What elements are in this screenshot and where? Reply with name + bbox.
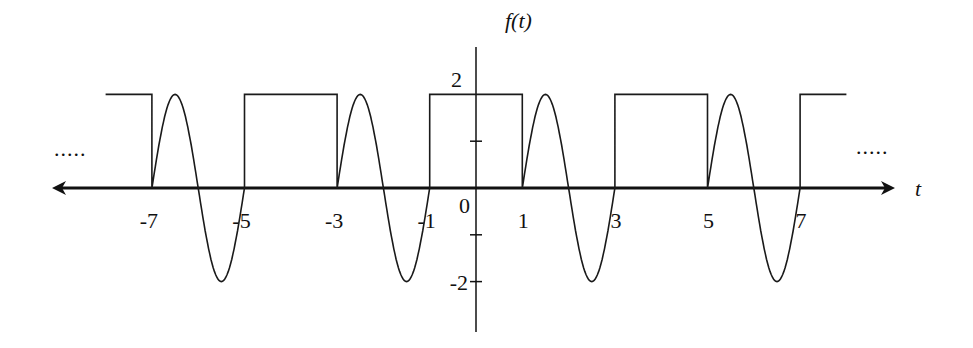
- origin-label: 0: [459, 193, 470, 218]
- y-tick-label: -2: [450, 270, 468, 295]
- x-tick-label: -3: [325, 208, 343, 233]
- y-tick-label: 2: [451, 67, 462, 92]
- left-ellipsis: .....: [54, 136, 87, 161]
- right-ellipsis: .....: [856, 134, 889, 159]
- x-tick-label: -7: [140, 208, 158, 233]
- signal-diagram: 2-2 -7-5-3-11357 f(t) t 0 ..... .....: [0, 0, 973, 348]
- x-tick-label: 5: [703, 208, 714, 233]
- x-tick-label: 1: [518, 208, 529, 233]
- x-tick-label: 7: [796, 208, 807, 233]
- x-tick-label: 3: [610, 208, 621, 233]
- y-axis-label: f(t): [505, 8, 532, 33]
- x-axis-label: t: [915, 176, 922, 201]
- y-ticks: 2-2: [450, 67, 482, 294]
